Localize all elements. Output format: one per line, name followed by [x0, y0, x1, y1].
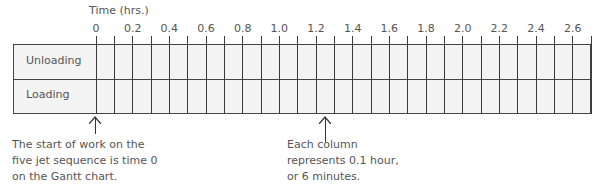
grid-column-line	[132, 36, 133, 114]
grid-column-line	[517, 36, 518, 114]
row-label-unloading: Unloading	[26, 54, 82, 67]
grid-column-line	[444, 36, 445, 114]
grid-column-line	[352, 36, 353, 114]
tick-label: 0	[93, 22, 100, 35]
tick-label: 0.4	[161, 22, 179, 35]
grid-column-line	[96, 36, 97, 114]
tick-label: 1.0	[271, 22, 289, 35]
tick-label: 2.4	[527, 22, 545, 35]
grid-column-line	[224, 36, 225, 114]
arrowhead-up-icon	[319, 116, 331, 124]
tick-label: 1.4	[344, 22, 362, 35]
tick-label: 1.8	[417, 22, 435, 35]
axis-title: Time (hrs.)	[89, 4, 149, 17]
note-start-time: The start of work on the five jet sequen…	[12, 137, 157, 185]
grid-column-line	[297, 36, 298, 114]
tick-label: 2.0	[454, 22, 472, 35]
tick-label: 2.6	[564, 22, 582, 35]
note-column-width: Each column represents 0.1 hour, or 6 mi…	[287, 137, 399, 185]
tick-label: 1.6	[381, 22, 399, 35]
grid-column-line	[169, 36, 170, 114]
grid-column-line	[187, 36, 188, 114]
grid-column-line	[206, 36, 207, 114]
grid-column-line	[462, 36, 463, 114]
grid-column-line	[114, 36, 115, 114]
grid-column-line	[334, 36, 335, 114]
tick-label: 0.2	[124, 22, 142, 35]
grid-column-line	[536, 36, 537, 114]
grid-column-line	[407, 36, 408, 114]
grid-column-line	[572, 36, 573, 114]
grid-column-line	[426, 36, 427, 114]
row-divider	[14, 79, 590, 80]
grid-column-line	[591, 36, 592, 114]
grid-column-line	[261, 36, 262, 114]
grid-column-line	[554, 36, 555, 114]
tick-label: 1.2	[307, 22, 325, 35]
grid-column-line	[242, 36, 243, 114]
tick-label: 2.2	[491, 22, 509, 35]
row-label-loading: Loading	[26, 88, 69, 101]
grid-column-line	[389, 36, 390, 114]
tick-label: 0.6	[197, 22, 215, 35]
arrowhead-up-icon	[89, 116, 101, 124]
grid-column-line	[371, 36, 372, 114]
grid-column-line	[279, 36, 280, 114]
tick-label: 0.8	[234, 22, 252, 35]
grid-column-line	[499, 36, 500, 114]
grid-column-line	[481, 36, 482, 114]
grid-column-line	[151, 36, 152, 114]
gantt-grid: Unloading Loading	[13, 44, 591, 114]
grid-column-line	[316, 36, 317, 114]
